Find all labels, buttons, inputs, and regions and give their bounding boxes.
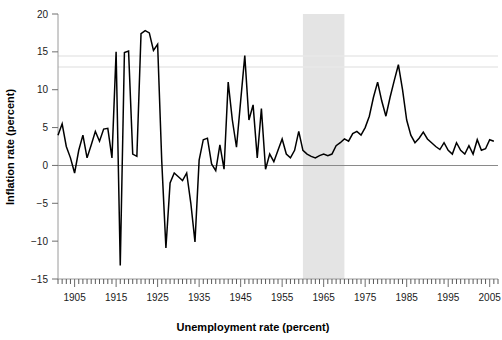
x-axis-title: Unemployment rate (percent) (177, 321, 330, 333)
x-tick-label: 1985 (396, 292, 419, 303)
y-tick-label: 10 (37, 84, 49, 95)
y-tick-label: 20 (37, 9, 49, 20)
x-tick-label: 1915 (105, 292, 128, 303)
x-tick-label: 1975 (354, 292, 377, 303)
y-tick-label: −10 (31, 236, 48, 247)
x-tick-label: 1905 (63, 292, 86, 303)
highlight-band-group (303, 14, 345, 279)
y-tick-label: −5 (37, 198, 49, 209)
y-tick-label: 15 (37, 46, 49, 57)
x-tick-label: 1955 (271, 292, 294, 303)
highlight-band (303, 14, 345, 279)
y-axis-title: Inflation rate (percent) (4, 89, 16, 205)
y-tick-label: 5 (42, 122, 48, 133)
x-tick-label: 2005 (479, 292, 502, 303)
x-tick-label: 1925 (146, 292, 169, 303)
chart-figure: −15−10−505101520 19051915192519351945195… (0, 0, 502, 340)
y-tick-label: 0 (42, 160, 48, 171)
y-tick-label: −15 (31, 274, 48, 285)
x-tick-label: 1965 (313, 292, 336, 303)
x-tick-label: 1995 (437, 292, 460, 303)
inflation-line-chart: −15−10−505101520 19051915192519351945195… (0, 0, 502, 340)
x-tick-label: 1945 (230, 292, 253, 303)
x-tick-label: 1935 (188, 292, 211, 303)
